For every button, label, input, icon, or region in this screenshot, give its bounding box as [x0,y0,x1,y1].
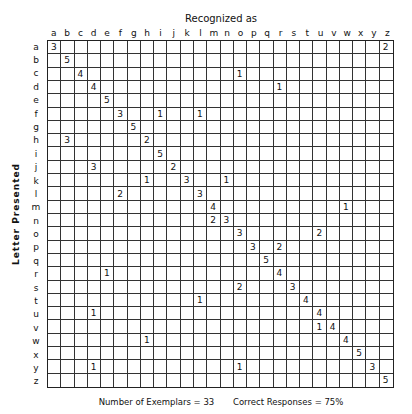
matrix-cell [128,54,141,67]
matrix-cell [313,94,326,107]
matrix-cell [181,294,194,307]
matrix-cell [48,347,61,360]
matrix-cell [48,161,61,174]
matrix-cell [128,174,141,187]
matrix-cell [181,121,194,134]
matrix-cell [128,334,141,347]
matrix-cell [114,227,127,240]
matrix-cell [48,108,61,121]
matrix-cell [300,68,313,81]
matrix-cell [313,161,326,174]
matrix-cell [247,201,260,214]
matrix-cell [221,360,234,373]
matrix-cell [340,68,353,81]
matrix-cell [366,347,379,360]
matrix-cell [221,108,234,121]
column-label: u [314,27,327,39]
matrix-cell [260,334,273,347]
matrix-cell [101,214,114,227]
matrix-cell [327,94,340,107]
matrix-cell [353,161,366,174]
matrix-cell [274,281,287,294]
matrix-cell [260,108,273,121]
matrix-cell [313,254,326,267]
row-labels: abcdefghijklmnopqrstuvwxyz [30,40,42,388]
matrix-cell [154,320,167,333]
matrix-cell [194,307,207,320]
matrix-cell [274,187,287,200]
matrix-cell [61,254,74,267]
matrix-cell [260,320,273,333]
matrix-cell [380,241,393,254]
column-label: y [367,27,380,39]
matrix-cell [88,187,101,200]
matrix-cell [101,307,114,320]
matrix-cell [194,68,207,81]
matrix-cell [353,94,366,107]
matrix-cell [207,94,220,107]
matrix-cell [48,254,61,267]
matrix-cell [313,147,326,160]
matrix-cell [88,227,101,240]
matrix-cell: 5 [260,254,273,267]
matrix-cell [61,267,74,280]
matrix-cell [154,161,167,174]
matrix-cell [260,174,273,187]
matrix-cell: 3 [48,41,61,54]
matrix-cell [313,374,326,387]
matrix-cell [327,201,340,214]
matrix-cell [260,134,273,147]
matrix-cell [61,121,74,134]
matrix-cell [181,147,194,160]
matrix-cell [380,214,393,227]
matrix-cell [181,241,194,254]
matrix-cell [234,201,247,214]
matrix-cell [247,108,260,121]
matrix-cell [366,281,379,294]
matrix-cell [207,294,220,307]
matrix-cell [234,94,247,107]
matrix-cell [327,54,340,67]
matrix-cell [61,374,74,387]
column-label: d [87,27,100,39]
matrix-cell [75,241,88,254]
matrix-cell [128,294,141,307]
matrix-cell [167,108,180,121]
matrix-cell [75,108,88,121]
matrix-cell [221,294,234,307]
matrix-cell [287,68,300,81]
row-label: g [30,120,42,133]
matrix-cell [75,161,88,174]
matrix-cell [353,320,366,333]
matrix-cell: 2 [380,41,393,54]
matrix-cell [48,374,61,387]
matrix-cell [300,374,313,387]
matrix-cell [207,227,220,240]
matrix-cell [366,147,379,160]
matrix-cell [141,161,154,174]
matrix-cell [234,161,247,174]
matrix-cell [327,174,340,187]
column-label: w [341,27,354,39]
matrix-cell [313,201,326,214]
matrix-cell [128,320,141,333]
matrix-cell [114,134,127,147]
matrix-cell [154,334,167,347]
matrix-cell: 4 [274,267,287,280]
column-label: x [354,27,367,39]
matrix-cell [353,121,366,134]
row-label: a [30,40,42,53]
matrix-cell [340,147,353,160]
matrix-cell [194,54,207,67]
matrix-cell [128,281,141,294]
matrix-cell: 4 [313,307,326,320]
row-label: s [30,281,42,294]
matrix-cell [167,94,180,107]
matrix-cell [221,134,234,147]
matrix-cell [234,241,247,254]
column-label: s [287,27,300,39]
matrix-cell [247,267,260,280]
row-label: b [30,53,42,66]
row-label: k [30,174,42,187]
matrix-cell [313,241,326,254]
